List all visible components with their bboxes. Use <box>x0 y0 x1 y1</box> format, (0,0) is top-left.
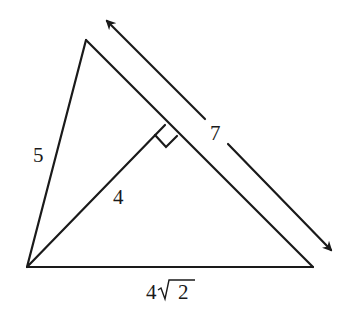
right-angle-marker <box>155 135 177 147</box>
label-left-side: 5 <box>33 143 44 167</box>
altitude-line <box>27 125 165 267</box>
label-altitude: 4 <box>113 185 124 209</box>
label-base-radicand: 2 <box>178 280 189 304</box>
radical-sign-icon <box>158 280 195 299</box>
dimension-arrow-upper <box>107 21 205 119</box>
label-base-coef: 4 <box>146 280 157 304</box>
label-base: 4 2 <box>146 280 195 304</box>
triangle-diagram: 5 4 7 4 2 <box>0 0 351 314</box>
label-right-side: 7 <box>210 121 221 145</box>
side-right <box>86 40 313 267</box>
